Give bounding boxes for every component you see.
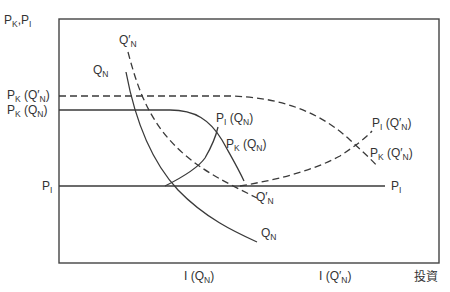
x-tick-i-qn: I (QN): [184, 269, 214, 285]
label-qn-top: QN: [93, 63, 108, 79]
label-pi-qn: PI (QN): [216, 111, 253, 127]
qpn-curve: [128, 52, 257, 198]
x-axis-label: 投資: [414, 269, 438, 284]
pk-qpn-curve: [59, 96, 378, 167]
label-pi-right: PI: [391, 179, 401, 195]
y-tick-pk-qn: PK (QN): [7, 103, 48, 119]
investment-diagram: PK,PI PK (Q′N) PK (QN) PI I (QN) I (Q′N)…: [0, 0, 450, 292]
label-qpn-bottom: Q′N: [256, 190, 274, 206]
label-qn-bottom: QN: [261, 226, 276, 242]
label-pi-qpn: PI (Q′N): [372, 116, 411, 132]
label-qpn-top: Q′N: [119, 33, 137, 49]
pi-qn-curve: [165, 127, 218, 186]
label-pk-qpn: PK (Q′N): [370, 146, 413, 162]
label-pk-qn: PK (QN): [226, 137, 267, 153]
y-tick-pk-qpn: PK (Q′N): [7, 88, 50, 104]
y-tick-pi: PI: [42, 179, 52, 195]
pi-qpn-curve: [240, 131, 372, 186]
qn-curve: [126, 72, 257, 242]
x-tick-i-qpn: I (Q′N): [319, 269, 351, 285]
y-axis-label: PK,PI: [4, 13, 31, 29]
